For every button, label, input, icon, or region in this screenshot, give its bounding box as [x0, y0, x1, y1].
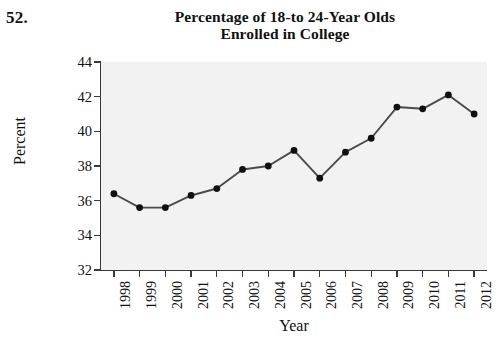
x-axis-tick	[216, 270, 217, 277]
chart-figure: 52. Percentage of 18-to 24-Year Olds Enr…	[0, 0, 500, 339]
x-axis-tick-label: 2010	[428, 281, 442, 309]
x-axis-tick-label: 2002	[222, 281, 236, 309]
x-axis-tick	[473, 270, 474, 277]
y-axis-tick-label: 40	[58, 124, 92, 139]
x-axis-tick	[139, 270, 140, 277]
x-axis-tick-label: 2009	[402, 281, 416, 309]
x-axis-tick-label: 2005	[300, 281, 314, 309]
x-axis-tick	[268, 270, 269, 277]
y-axis-tick-label: 44	[58, 55, 92, 70]
chart-title-line-2: Enrolled in College	[75, 25, 495, 42]
x-axis-tick-label: 1998	[119, 281, 133, 309]
y-axis-label: Percent	[12, 117, 28, 165]
x-axis-tick-label: 2001	[197, 281, 211, 309]
chart-title: Percentage of 18-to 24-Year Olds Enrolle…	[75, 8, 495, 42]
y-axis-tick	[94, 269, 101, 270]
x-axis-label: Year	[101, 318, 487, 334]
x-axis-tick-label: 2003	[248, 281, 262, 309]
plot-area	[101, 62, 487, 270]
y-axis-tick	[94, 96, 101, 97]
x-axis-tick	[190, 270, 191, 277]
y-axis-tick-labels: 32343638404244	[54, 0, 92, 339]
y-axis-tick-label: 32	[58, 263, 92, 278]
x-axis-tick-label: 2011	[454, 281, 468, 308]
x-axis-tick-label: 2012	[480, 281, 494, 309]
x-axis-tick-label: 2008	[377, 281, 391, 309]
x-axis-tick-label: 2004	[274, 281, 288, 309]
y-axis-tick-label: 42	[58, 90, 92, 105]
y-axis-tick	[94, 165, 101, 166]
y-axis-tick	[94, 235, 101, 236]
x-axis-tick	[113, 270, 114, 277]
x-axis-tick	[448, 270, 449, 277]
y-axis-tick-label: 34	[58, 228, 92, 243]
y-axis-tick	[94, 200, 101, 201]
x-axis-tick	[293, 270, 294, 277]
problem-number: 52.	[6, 9, 28, 26]
x-axis-tick	[165, 270, 166, 277]
x-axis-tick-label: 2007	[351, 281, 365, 309]
y-axis-tick	[94, 131, 101, 132]
x-axis-tick-label: 2000	[171, 281, 185, 309]
chart-title-line-1: Percentage of 18-to 24-Year Olds	[75, 8, 495, 25]
y-axis-tick	[94, 61, 101, 62]
x-axis-tick-label: 2006	[325, 281, 339, 309]
y-axis-tick-label: 38	[58, 159, 92, 174]
x-axis-tick-label: 1999	[145, 281, 159, 309]
x-axis-tick	[422, 270, 423, 277]
x-axis-tick	[345, 270, 346, 277]
x-axis-tick	[371, 270, 372, 277]
y-axis-tick-label: 36	[58, 194, 92, 209]
x-axis-tick	[319, 270, 320, 277]
x-axis-tick	[242, 270, 243, 277]
x-axis-tick	[396, 270, 397, 277]
